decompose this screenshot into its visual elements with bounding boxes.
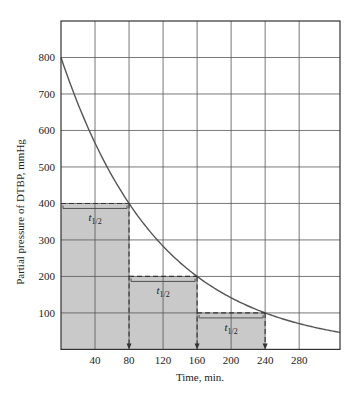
y-tick-label: 500 <box>39 161 56 173</box>
y-tick-label: 600 <box>39 124 56 136</box>
x-tick-label: 200 <box>223 354 240 366</box>
half-life-chart: t1/2t1/2t1/2 100200300400500600700800 40… <box>0 0 353 395</box>
y-tick-label: 300 <box>39 234 56 246</box>
x-tick-label: 240 <box>257 354 274 366</box>
y-axis-title: Partial pressure of DTBP, mmHg <box>14 139 26 285</box>
x-tick-label: 160 <box>189 354 206 366</box>
x-tick-label: 280 <box>291 354 308 366</box>
x-tick-label: 120 <box>155 354 172 366</box>
y-tick-label: 200 <box>39 270 56 282</box>
y-tick-label: 100 <box>39 307 56 319</box>
y-tick-label: 700 <box>39 88 56 100</box>
y-tick-label: 800 <box>39 51 56 63</box>
y-tick-label: 400 <box>39 197 56 209</box>
x-axis-ticks: 4080120160200240280 <box>90 354 308 366</box>
x-axis-title: Time, min. <box>176 371 224 383</box>
x-tick-label: 80 <box>124 354 136 366</box>
y-axis-ticks: 100200300400500600700800 <box>39 51 56 318</box>
x-tick-label: 40 <box>90 354 102 366</box>
